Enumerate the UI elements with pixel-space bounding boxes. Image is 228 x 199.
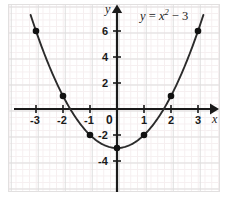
equation-label: y = x2 − 3 (140, 8, 188, 23)
xtick-label-neg3: -3 (30, 115, 40, 126)
equation-constant: − 3 (172, 9, 188, 23)
point--2-1 (60, 93, 67, 100)
ytick-label-4: 4 (102, 52, 108, 63)
point--3-6 (33, 28, 40, 35)
x-axis-label: x (212, 113, 217, 125)
point-2-1 (168, 93, 175, 100)
equation-exponent: 2 (164, 7, 168, 17)
point--1--2 (87, 132, 94, 139)
ytick-label-neg2: -2 (98, 130, 108, 141)
point-1--2 (141, 132, 148, 139)
xtick-label-2: 2 (168, 115, 174, 126)
point-3-6 (195, 28, 202, 35)
ytick-label-6: 6 (102, 26, 108, 37)
graph-overlay (0, 0, 228, 199)
xtick-label-neg2: -2 (57, 115, 67, 126)
equation-lhs: y (140, 9, 146, 23)
y-axis (112, 5, 122, 193)
ytick-label-neg4: -4 (98, 156, 108, 167)
equation-equals: = (149, 9, 156, 23)
ytick-label-2: 2 (102, 78, 108, 89)
y-axis-label: y (105, 3, 110, 15)
xtick-label-1: 1 (141, 115, 147, 126)
xtick-label-3: 3 (195, 115, 201, 126)
xtick-label-neg1: -1 (84, 115, 94, 126)
point-0--3 (114, 145, 121, 152)
xtick-label-0: 0 (106, 114, 113, 126)
parabola-figure: -3 -2 -1 0 1 2 3 6 4 2 -2 -4 y x y = x2 … (0, 0, 228, 199)
